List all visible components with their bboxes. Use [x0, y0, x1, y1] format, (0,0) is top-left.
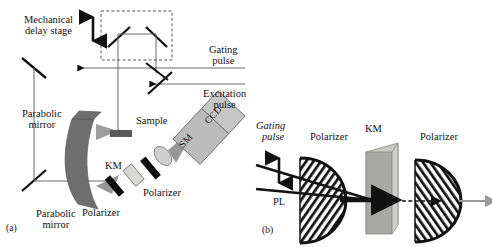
label-mechanical-delay-stage-line2: delay stage — [24, 25, 73, 36]
label-polarizer-upper: Polarizer — [143, 187, 181, 198]
label-gating-pulse-line1: Gating — [209, 44, 238, 55]
label-parabolic-mirror-bottom-line2: mirror — [36, 219, 76, 230]
label-parabolic-mirror-top-line2: mirror — [22, 119, 62, 130]
label-gating-pulse-panel-b-line1: Gating — [256, 120, 285, 131]
delay-stage-dashed-box — [101, 11, 172, 60]
label-sample: Sample — [136, 115, 168, 126]
delay-mirror-left — [108, 27, 130, 47]
label-excitation-pulse-line1: Excitation — [203, 88, 246, 99]
parabolic-mirror-upper-tip — [72, 111, 101, 119]
label-parabolic-mirror-bottom-line1: Parabolic — [36, 208, 76, 219]
figure-canvas: Mechanical delay stage Gating pulse Exci… — [0, 0, 492, 247]
polarizer-disc-first — [300, 158, 346, 243]
label-parabolic-mirror-top-line1: Parabolic — [22, 108, 62, 119]
mirror-gating-fold — [146, 63, 168, 80]
label-parabolic-mirror-top: Parabolic mirror — [22, 108, 62, 130]
label-parabolic-mirror-bottom: Parabolic mirror — [36, 208, 76, 230]
label-gating-pulse-panel-b-line2: pulse — [262, 131, 285, 142]
label-polarizer-first: Polarizer — [310, 131, 348, 142]
label-gating-pulse-line2: pulse — [209, 55, 238, 66]
label-km-panel-b: KM — [365, 123, 382, 134]
sample-bar — [110, 130, 132, 137]
label-excitation-pulse-line2: pulse — [203, 99, 246, 110]
delay-stage-beam — [118, 34, 156, 38]
label-mechanical-delay-stage-line1: Mechanical — [24, 14, 73, 25]
km-crystal-block — [123, 164, 144, 186]
panel-label-a: (a) — [6, 224, 17, 234]
mirror-excitation-fold — [148, 72, 172, 94]
km-slab-front-face — [366, 152, 392, 234]
label-gating-pulse-panel-b: Gating pulse — [256, 120, 285, 142]
panel-label-b: (b) — [262, 226, 273, 236]
km-slab-side-face — [392, 143, 398, 234]
label-mechanical-delay-stage: Mechanical delay stage — [24, 14, 73, 36]
label-pl: PL — [273, 196, 285, 207]
parabolic-mirror-body — [65, 119, 98, 209]
label-excitation-pulse: Excitation pulse — [203, 88, 246, 110]
label-polarizer-second: Polarizer — [420, 131, 458, 142]
label-polarizer-lower: Polarizer — [82, 207, 120, 218]
label-km-panel-a: KM — [105, 160, 122, 171]
label-gating-pulse: Gating pulse — [209, 44, 238, 66]
